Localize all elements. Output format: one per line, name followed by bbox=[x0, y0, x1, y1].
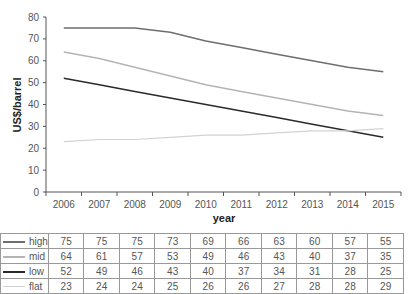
table-cell: 57 bbox=[332, 234, 368, 249]
y-tick-label: 50 bbox=[28, 77, 40, 88]
series-line-high bbox=[64, 28, 384, 72]
table-cell: 35 bbox=[368, 249, 404, 264]
table-cell: 40 bbox=[190, 264, 226, 279]
table-cell: 40 bbox=[297, 249, 333, 264]
table-cell: 46 bbox=[226, 249, 262, 264]
table-cell: 53 bbox=[155, 249, 191, 264]
y-axis-label: US$/barrel bbox=[11, 77, 23, 132]
table-cell: 24 bbox=[119, 279, 155, 294]
table-cell: 75 bbox=[48, 234, 84, 249]
table-cell: 46 bbox=[119, 264, 155, 279]
table-cell: 63 bbox=[261, 234, 297, 249]
x-tick-label: 2011 bbox=[230, 199, 252, 210]
x-tick-label: 2007 bbox=[88, 199, 111, 210]
table-cell: 28 bbox=[332, 279, 368, 294]
legend-swatch-icon bbox=[3, 286, 25, 287]
table-row: high75757573696663605755 bbox=[1, 234, 404, 249]
series-line-mid bbox=[64, 52, 384, 115]
x-axis-label: year bbox=[213, 212, 236, 224]
x-tick-label: 2009 bbox=[159, 199, 182, 210]
table-cell: 26 bbox=[190, 279, 226, 294]
y-tick-label: 10 bbox=[28, 165, 40, 176]
table-cell: 37 bbox=[332, 249, 368, 264]
data-table: high75757573696663605755mid6461575349464… bbox=[0, 233, 404, 294]
legend-label: flat bbox=[29, 281, 42, 292]
table-cell: 75 bbox=[119, 234, 155, 249]
table-cell: 64 bbox=[48, 249, 84, 264]
y-tick-label: 20 bbox=[28, 143, 40, 154]
table-cell: 31 bbox=[297, 264, 333, 279]
table-cell: 55 bbox=[368, 234, 404, 249]
chart-series-lines bbox=[64, 28, 384, 142]
table-cell: 43 bbox=[261, 249, 297, 264]
table-cell: 28 bbox=[332, 264, 368, 279]
y-tick-label: 80 bbox=[28, 12, 40, 23]
table-cell: 73 bbox=[155, 234, 191, 249]
table-cell: 25 bbox=[368, 264, 404, 279]
legend-label: high bbox=[29, 236, 48, 247]
table-cell: 60 bbox=[297, 234, 333, 249]
legend-cell: flat bbox=[1, 279, 49, 294]
x-tick-label: 2006 bbox=[53, 199, 76, 210]
table-cell: 75 bbox=[84, 234, 120, 249]
table-cell: 25 bbox=[155, 279, 191, 294]
table-cell: 29 bbox=[368, 279, 404, 294]
table-cell: 61 bbox=[84, 249, 120, 264]
table-cell: 49 bbox=[84, 264, 120, 279]
x-tick-label: 2015 bbox=[372, 199, 395, 210]
legend-swatch-icon bbox=[3, 241, 25, 243]
x-tick-label: 2008 bbox=[124, 199, 147, 210]
legend-cell: mid bbox=[1, 249, 49, 264]
table-cell: 43 bbox=[155, 264, 191, 279]
y-tick-label: 0 bbox=[33, 187, 39, 198]
table-cell: 57 bbox=[119, 249, 155, 264]
legend-cell: high bbox=[1, 234, 49, 249]
y-tick-label: 40 bbox=[28, 99, 40, 110]
table-cell: 66 bbox=[226, 234, 262, 249]
series-line-low bbox=[64, 78, 384, 137]
y-tick-label: 70 bbox=[28, 33, 40, 44]
table-row: mid64615753494643403735 bbox=[1, 249, 404, 264]
y-tick-label: 60 bbox=[28, 55, 40, 66]
table-row: flat23242425262627282829 bbox=[1, 279, 404, 294]
legend-swatch-icon bbox=[3, 271, 25, 273]
x-tick-label: 2010 bbox=[195, 199, 218, 210]
table-cell: 28 bbox=[297, 279, 333, 294]
table-cell: 34 bbox=[261, 264, 297, 279]
series-line-flat bbox=[64, 129, 384, 142]
line-chart: 0102030405060708020062007200820092010201… bbox=[0, 0, 410, 232]
table-cell: 24 bbox=[84, 279, 120, 294]
table-cell: 52 bbox=[48, 264, 84, 279]
x-tick-label: 2012 bbox=[266, 199, 289, 210]
table-cell: 69 bbox=[190, 234, 226, 249]
legend-cell: low bbox=[1, 264, 49, 279]
table-cell: 26 bbox=[226, 279, 262, 294]
y-tick-label: 30 bbox=[28, 121, 40, 132]
x-tick-label: 2013 bbox=[301, 199, 324, 210]
table-cell: 23 bbox=[48, 279, 84, 294]
legend-label: mid bbox=[29, 251, 45, 262]
legend-swatch-icon bbox=[3, 256, 25, 258]
legend-label: low bbox=[29, 266, 44, 277]
x-tick-label: 2014 bbox=[337, 199, 360, 210]
table-cell: 37 bbox=[226, 264, 262, 279]
table-row: low52494643403734312825 bbox=[1, 264, 404, 279]
table-cell: 27 bbox=[261, 279, 297, 294]
table-cell: 49 bbox=[190, 249, 226, 264]
